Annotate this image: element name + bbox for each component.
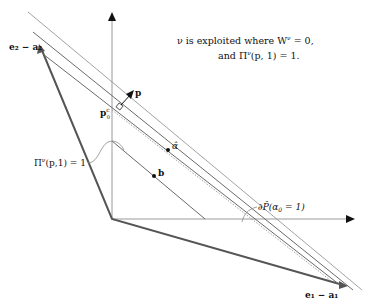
p-label: p bbox=[135, 88, 141, 98]
pi-curve-label: Πν(p,1) = 1 bbox=[34, 156, 86, 168]
annotation-line-1: ν is exploited where Wν = 0, bbox=[177, 34, 314, 46]
alpha-hat-label: α̂ bbox=[172, 141, 178, 151]
vertical-axis-arrow-icon bbox=[108, 12, 116, 21]
diagram: ν is exploited where Wν = 0, and Πν(p, 1… bbox=[0, 0, 371, 308]
profit-one-line bbox=[112, 141, 205, 219]
b-label: b bbox=[158, 168, 164, 178]
horizontal-axis-arrow-icon bbox=[346, 215, 355, 223]
dotted-line bbox=[112, 110, 330, 280]
b-point bbox=[152, 174, 156, 178]
hyperplane-line-2 bbox=[43, 54, 340, 285]
annotation-line-2: and Πν(p, 1) = 1. bbox=[218, 49, 299, 61]
p0c-label: pc0 bbox=[100, 106, 110, 120]
boundary-line-outer bbox=[28, 12, 362, 290]
endowment-cone-boundary bbox=[41, 48, 343, 285]
e2-a2-label: e₂ − a₂ bbox=[9, 42, 42, 52]
boundary-label: ∂P̂(α0 = 1) bbox=[258, 201, 305, 213]
pi-leader-curve bbox=[88, 141, 124, 163]
e1-a1-label: e₁ − a₁ bbox=[305, 290, 338, 300]
alpha-hat-point bbox=[166, 148, 170, 152]
